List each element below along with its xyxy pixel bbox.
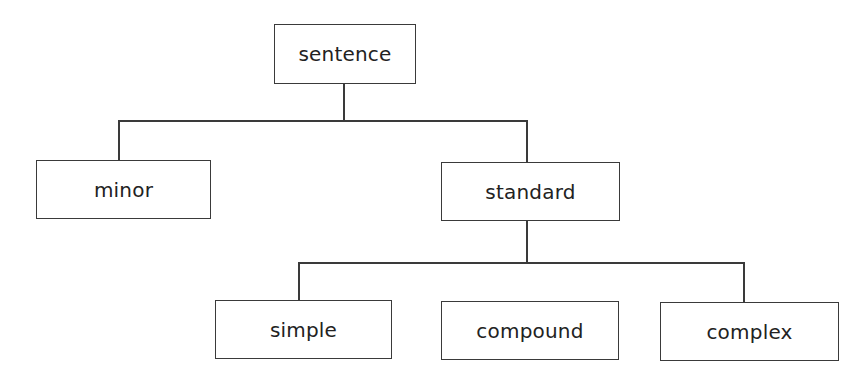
node-label: simple [270, 318, 337, 342]
connector-level3-bar [298, 262, 744, 264]
node-label: sentence [298, 42, 391, 66]
node-standard: standard [441, 162, 620, 221]
connector-standard-down [526, 220, 528, 263]
connector-level2-bar [118, 120, 527, 122]
node-complex: complex [660, 302, 839, 361]
node-label: standard [485, 180, 575, 204]
connector-to-simple [298, 262, 300, 301]
node-simple: simple [215, 300, 392, 359]
connector-sentence-down [343, 84, 345, 121]
node-label: compound [476, 319, 583, 343]
node-label: minor [94, 178, 153, 202]
node-minor: minor [36, 160, 211, 219]
node-compound: compound [441, 301, 619, 360]
connector-to-complex [743, 262, 745, 303]
node-sentence: sentence [274, 24, 416, 84]
connector-to-standard [526, 120, 528, 163]
node-label: complex [706, 320, 792, 344]
connector-to-minor [118, 120, 120, 161]
sentence-types-tree-diagram: sentence minor standard simple compound … [0, 0, 867, 384]
